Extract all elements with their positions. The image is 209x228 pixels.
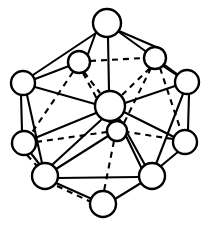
vertex-sphere-left [11, 71, 35, 95]
vertex-sphere-upper-right [144, 47, 166, 69]
hidden-edge-v-upper-left-to-v-upper-right [90, 58, 144, 61]
edge-v-right-lower-to-v-bottom-right [161, 151, 179, 166]
vertex-sphere-left-lower [12, 131, 36, 155]
edge-v-right-lower-to-v-center [124, 112, 174, 137]
vertex-sphere-bottom [90, 191, 116, 217]
vertex-sphere-inner-lower [107, 121, 127, 141]
vertex-sphere-right-lower [173, 130, 197, 154]
edge-v-top-to-v-center [108, 37, 109, 91]
edge-v-right-to-v-right-lower [188, 94, 189, 130]
hidden-edge-v-bottom-left-to-v-bottom [57, 186, 91, 202]
edge-v-bottom-left-to-v-bottom [56, 183, 92, 199]
hidden-edge-v-upper-right-to-v-center [122, 68, 150, 95]
hidden-edge-v-upper-left-to-v-center [84, 72, 100, 93]
cluster-diagram-canvas [0, 0, 209, 228]
vertex-sphere-center [95, 91, 125, 121]
edge-v-bottom-left-to-v-bottom-right [58, 177, 139, 178]
edge-v-left-to-v-left-lower [21, 95, 22, 131]
vertex-sphere-bottom-right [139, 163, 165, 189]
vertex-sphere-bottom-left [32, 163, 58, 189]
hidden-edge-v-inner-lower-to-v-bottom [104, 141, 114, 191]
vertex-sphere-top [93, 9, 121, 37]
edge-v-left-to-v-center [35, 87, 95, 104]
edge-v-upper-right-to-v-right [163, 66, 178, 76]
edge-v-bottom-right-to-v-bottom [115, 183, 141, 199]
vertex-sphere-upper-left [68, 51, 90, 73]
vertex-sphere-right [175, 70, 199, 94]
edge-v-bottom-left-to-v-center [52, 120, 101, 165]
edge-v-upper-left-to-v-left [35, 66, 69, 79]
edge-v-inner-lower-to-v-bottom-right [126, 136, 141, 167]
edge-v-inner-lower-to-v-bottom-left [56, 136, 108, 169]
icosahedral-cluster-figure [0, 0, 209, 228]
edge-v-right-to-v-center [125, 86, 175, 103]
